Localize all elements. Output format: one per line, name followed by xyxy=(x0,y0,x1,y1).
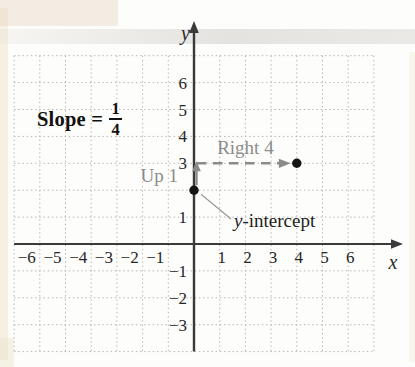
x-tick-label: −4 xyxy=(69,249,87,266)
slope-fraction: 1 4 xyxy=(109,100,122,139)
y-tick-label: −1 xyxy=(169,262,187,279)
y-tick-label: −3 xyxy=(169,316,187,333)
slope-graph-figure: Slope = 1 4 y x Up 1 Right 4 y-intercept… xyxy=(0,0,415,367)
x-tick-label: 5 xyxy=(320,249,329,266)
x-axis-label: x xyxy=(389,252,398,272)
y-intercept-label: y-intercept xyxy=(234,211,315,230)
y-tick-label: 3 xyxy=(179,155,188,172)
y-tick-label: 1 xyxy=(179,209,188,226)
fraction-numerator: 1 xyxy=(111,100,119,117)
x-tick-label: −2 xyxy=(121,249,139,266)
x-tick-label: 3 xyxy=(269,249,278,266)
y-tick-label: 5 xyxy=(179,101,188,118)
y-axis-label: y xyxy=(181,23,190,43)
x-tick-label: 1 xyxy=(217,249,226,266)
x-tick-label: −6 xyxy=(18,249,36,266)
x-tick-label: 6 xyxy=(346,249,355,266)
label-overlay: Slope = 1 4 y x Up 1 Right 4 y-intercept… xyxy=(0,0,415,367)
x-tick-label: 4 xyxy=(295,249,304,266)
slope-equation-text: Slope = xyxy=(37,108,103,131)
right-movement-label: Right 4 xyxy=(217,137,273,156)
slope-equation: Slope = 1 4 xyxy=(37,95,122,143)
x-tick-label: −5 xyxy=(43,249,61,266)
y-tick-label: 6 xyxy=(179,74,188,91)
y-tick-label: −2 xyxy=(169,289,187,306)
x-tick-label: 2 xyxy=(243,249,252,266)
fraction-denominator: 4 xyxy=(111,121,119,138)
up-movement-label: Up 1 xyxy=(141,165,178,184)
x-tick-label: −3 xyxy=(95,249,113,266)
x-tick-label: −1 xyxy=(146,249,164,266)
y-tick-label: 4 xyxy=(179,128,188,145)
